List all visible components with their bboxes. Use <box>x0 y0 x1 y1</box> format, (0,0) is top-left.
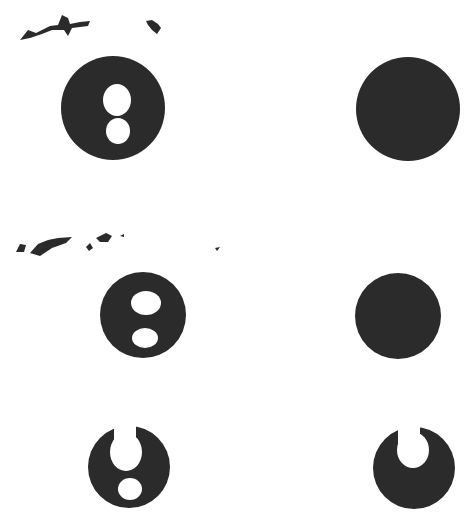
specimen-disc-row2-right <box>355 273 441 359</box>
hole <box>106 118 130 144</box>
notch <box>114 424 136 444</box>
specimen-disc-row1-left <box>61 56 165 160</box>
notch <box>398 425 420 443</box>
specimen-figure <box>0 0 472 520</box>
specimen-disc-row2-left <box>100 272 186 358</box>
figure-canvas <box>0 0 472 520</box>
hole <box>118 478 142 500</box>
hole <box>103 84 131 116</box>
specimen-disc-row1-right <box>356 57 460 161</box>
hole <box>131 291 161 315</box>
disc <box>355 273 441 359</box>
hole <box>132 328 158 348</box>
disc <box>356 57 460 161</box>
